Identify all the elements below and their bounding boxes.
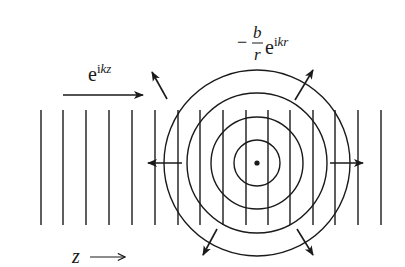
- incident-base: e: [88, 63, 97, 85]
- scatterer-point: [254, 160, 259, 165]
- axis-z-label: z: [71, 245, 80, 267]
- incident-exp-kz: kz: [101, 61, 112, 76]
- radial-arrow-down-right: [297, 229, 313, 255]
- scattered-wave-label: − b r eikr: [237, 23, 289, 64]
- incident-wave-label: eikz: [88, 61, 111, 85]
- radial-arrow-down-left: [203, 229, 217, 255]
- scattering-diagram: eikz − b r eikr z: [0, 0, 405, 267]
- radial-arrow-up-right: [295, 70, 313, 100]
- scattered-exp-term: eikr: [265, 34, 289, 58]
- radial-arrow-up-left: [152, 72, 167, 99]
- scattered-minus: −: [237, 32, 247, 52]
- scattered-denominator: r: [254, 45, 261, 64]
- scattered-numerator: b: [253, 23, 262, 42]
